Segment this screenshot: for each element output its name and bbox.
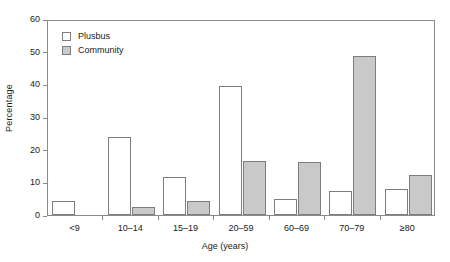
x-axis-separator-tick xyxy=(380,216,381,220)
x-axis-separator-tick xyxy=(324,216,325,220)
legend-item-plusbus: Plusbus xyxy=(62,29,124,43)
bar-plusbus xyxy=(385,189,408,215)
legend-item-community: Community xyxy=(62,43,124,57)
x-axis-separator-tick xyxy=(158,216,159,220)
legend-label-plusbus: Plusbus xyxy=(78,31,110,42)
bar-plusbus xyxy=(108,137,131,215)
y-tick-label: 10 xyxy=(30,177,40,188)
bar-plusbus xyxy=(274,199,297,215)
x-axis-title-text: Age (years) xyxy=(202,241,249,251)
x-axis-separator-tick xyxy=(269,216,270,220)
bar-chart-figure: Percentage 0102030405060 <910–1415–1920–… xyxy=(0,0,450,262)
bar-community xyxy=(353,56,376,215)
y-tick-label: 60 xyxy=(30,14,40,25)
legend-swatch-community xyxy=(62,46,71,55)
chart-legend: Plusbus Community xyxy=(62,29,124,57)
x-axis-title: Age (years) xyxy=(0,241,450,251)
y-tick-label: 30 xyxy=(30,112,40,123)
y-axis-title-text: Percentage xyxy=(4,84,14,132)
bar-community xyxy=(298,162,321,215)
bar-plusbus xyxy=(52,201,75,215)
legend-label-community: Community xyxy=(78,45,124,56)
y-tick-label: 20 xyxy=(30,145,40,156)
bar-plusbus xyxy=(163,177,186,215)
y-tick-label: 0 xyxy=(35,210,40,221)
x-axis-separator-tick xyxy=(102,216,103,220)
bar-community xyxy=(409,175,432,215)
legend-swatch-plusbus xyxy=(62,32,71,41)
bar-community xyxy=(187,201,210,215)
bar-community xyxy=(132,207,155,215)
bar-plusbus xyxy=(219,86,242,215)
y-tick-label: 50 xyxy=(30,47,40,58)
bar-community xyxy=(243,161,266,215)
x-axis-category-label: ≥80 xyxy=(367,222,447,234)
bar-plusbus xyxy=(329,191,352,216)
x-axis-separator-tick xyxy=(213,216,214,220)
y-tick-label: 40 xyxy=(30,79,40,90)
y-axis-title: Percentage xyxy=(2,0,16,216)
